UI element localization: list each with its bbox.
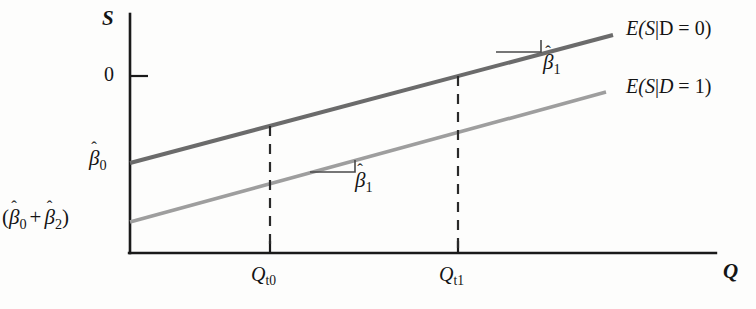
hat-accent-icon: ˆ — [357, 162, 363, 179]
plot-svg — [0, 0, 756, 309]
y-intercept-label-upper: ˆβ0 — [89, 148, 107, 169]
x-tick-label-qt1: Qt1 — [439, 264, 464, 284]
x-tick-label-qt0: Qt0 — [251, 264, 276, 284]
slope-label-upper: ˆβ1 — [543, 52, 561, 73]
x-axis-label: Q — [723, 261, 738, 282]
hat-accent-icon: ˆ — [91, 140, 97, 157]
y-tick-label-zero: 0 — [104, 64, 114, 84]
hat-accent-icon: ˆ — [47, 199, 53, 216]
hat-accent-icon: ˆ — [11, 199, 17, 216]
figure-container: S Q 0 ˆβ0 (ˆβ0+ˆβ2) Qt0 Qt1 E(S|D = 0) E… — [0, 0, 756, 309]
curve-label-expected-salary-d1: E(S|D = 1) — [626, 76, 711, 96]
y-axis-label: S — [102, 8, 114, 29]
y-intercept-label-lower: (ˆβ0+ˆβ2) — [2, 207, 69, 228]
line-expected-salary-d0 — [130, 35, 613, 163]
hat-accent-icon: ˆ — [545, 44, 551, 61]
curve-label-expected-salary-d0: E(S|D = 0) — [626, 18, 711, 38]
line-expected-salary-d1 — [130, 92, 606, 222]
slope-label-lower: ˆβ1 — [355, 170, 373, 191]
slope-triangle-upper — [496, 40, 541, 52]
